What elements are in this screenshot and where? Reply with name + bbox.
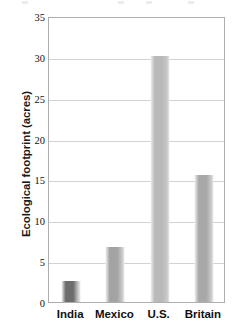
bar-slot — [182, 18, 226, 302]
x-axis-tick-label: Britain — [181, 308, 225, 320]
bar-britain — [194, 175, 213, 302]
y-axis-tick-label: 30 — [5, 52, 45, 63]
bar-india — [62, 281, 81, 302]
scan-artifacts — [0, 0, 235, 6]
y-axis-tick-label: 5 — [5, 257, 45, 268]
y-axis-tick-label: 10 — [5, 216, 45, 227]
bar-slot — [93, 18, 137, 302]
y-axis-tick-label: 20 — [5, 134, 45, 145]
y-axis-tick-label: 0 — [5, 298, 45, 309]
bar-slot — [138, 18, 182, 302]
x-axis-tick-label: India — [48, 308, 92, 320]
x-axis-tick-label: Mexico — [92, 308, 136, 320]
plot-area — [48, 17, 225, 303]
bar-slot — [49, 18, 93, 302]
y-axis-tick-label: 15 — [5, 175, 45, 186]
y-axis-tick-label: 25 — [5, 93, 45, 104]
chart-figure: Ecological footprint (acres) 05101520253… — [0, 0, 235, 334]
bar-mexico — [106, 247, 125, 302]
bar-us — [150, 56, 169, 302]
y-axis-title: Ecological footprint (acres) — [20, 49, 32, 279]
x-axis-tick-label: U.S. — [137, 308, 181, 320]
y-axis-tick-label: 35 — [5, 12, 45, 23]
